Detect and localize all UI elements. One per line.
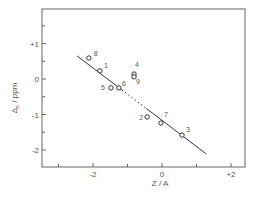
y-tick-label: -1 — [32, 111, 40, 120]
data-point-marker — [159, 121, 163, 125]
data-point-marker — [145, 115, 149, 119]
y-axis-label: Δc / ppm — [10, 82, 20, 113]
data-point-marker — [180, 133, 184, 137]
fit-line-solid-right — [146, 108, 206, 154]
x-axis-ticks: -20+2 — [59, 163, 237, 179]
x-tick-label: 0 — [160, 170, 165, 179]
y-axis-ticks: +10-1-2 — [30, 26, 46, 155]
x-tick-label: -2 — [89, 170, 97, 179]
y-tick-label: 0 — [35, 75, 40, 84]
y-axis-label-unit: / ppm — [10, 82, 19, 105]
x-axis-label: Z / A — [152, 179, 169, 188]
data-points: 815649273 — [87, 50, 190, 137]
data-point-label: 6 — [122, 80, 126, 87]
data-point-label: 4 — [135, 61, 139, 68]
data-point-marker — [87, 56, 91, 60]
chart-container: +10-1-2 -20+2 815649273 Z / A Δc / ppm — [0, 0, 257, 198]
data-point-label: 1 — [104, 62, 108, 69]
data-point-marker — [98, 69, 102, 73]
data-point-label: 9 — [136, 78, 140, 85]
axes-box — [42, 9, 245, 167]
plot-frame — [42, 9, 245, 167]
data-point-label: 2 — [139, 114, 143, 121]
data-point-label: 3 — [186, 126, 190, 133]
data-point-label: 8 — [94, 50, 98, 57]
data-point-marker — [117, 86, 121, 90]
data-point-label: 5 — [101, 84, 105, 91]
y-tick-label: -2 — [32, 146, 40, 155]
data-point-label: 7 — [164, 111, 168, 118]
y-tick-label: +1 — [30, 40, 40, 49]
fit-line-dotted — [122, 90, 146, 108]
x-tick-label: +2 — [226, 170, 236, 179]
data-point-marker — [109, 86, 113, 90]
scatter-plot: +10-1-2 -20+2 815649273 Z / A Δc / ppm — [0, 0, 257, 198]
regression-line — [77, 56, 206, 154]
